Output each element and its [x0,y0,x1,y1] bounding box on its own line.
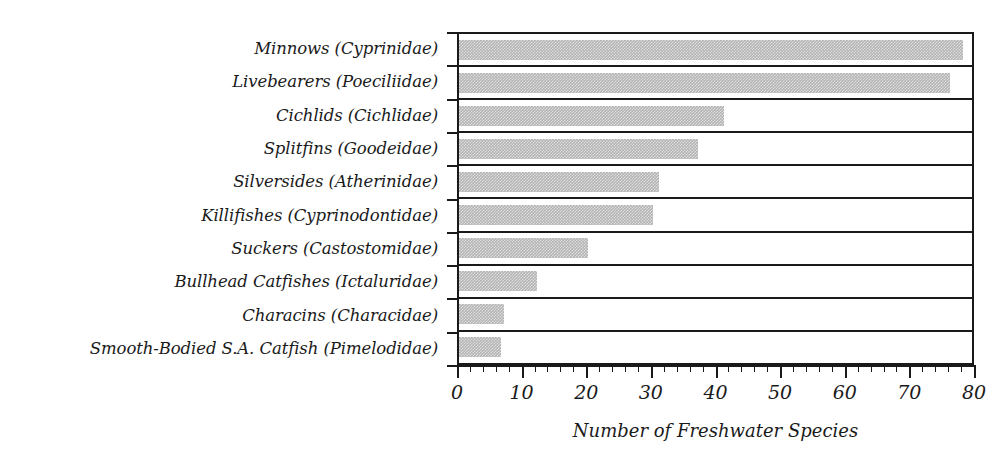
category-label: Smooth-Bodied S.A. Catfish (Pimelodidae) [0,332,446,365]
x-axis-tick-label: 60 [833,381,857,403]
bar-row [459,332,972,363]
bar [459,73,950,93]
category-label: Suckers (Castostomidae) [0,232,446,265]
x-axis-minor-tick [832,365,833,372]
x-axis-minor-tick [754,365,755,372]
x-axis-minor-tick [896,365,897,372]
bar-chart-figure: Minnows (Cyprinidae)Livebearers (Poecili… [0,0,1007,476]
x-axis-minor-tick [509,365,510,372]
x-axis-tick-label: 50 [768,381,792,403]
bar [459,205,653,225]
x-axis-tick-label: 10 [510,381,534,403]
category-label: Characins (Characidae) [0,298,446,331]
bar-row [459,266,972,299]
x-axis-major-tick [651,365,653,378]
category-label-column: Minnows (Cyprinidae)Livebearers (Poecili… [0,32,446,365]
x-axis-minor-tick [922,365,923,372]
category-label: Splitfins (Goodeidae) [0,132,446,165]
category-label: Minnows (Cyprinidae) [0,32,446,65]
category-label: Livebearers (Poeciliidae) [0,65,446,98]
x-axis-minor-tick [858,365,859,372]
x-axis-minor-tick [664,365,665,372]
x-axis-minor-tick [806,365,807,372]
x-axis-minor-tick [496,365,497,372]
x-axis-minor-tick [728,365,729,372]
bar [459,172,659,192]
bar [459,238,588,258]
x-axis-minor-tick [638,365,639,372]
bar-row [459,299,972,332]
x-axis-minor-tick [793,365,794,372]
x-axis-major-tick [586,365,588,378]
bar [459,106,724,126]
x-axis-major-tick [522,365,524,378]
x-axis-tick-label: 20 [574,381,598,403]
x-axis-minor-tick [470,365,471,372]
bar [459,271,537,291]
x-axis-major-tick [909,365,911,378]
bar-row [459,100,972,133]
x-axis-minor-tick [703,365,704,372]
x-axis-tick-label: 70 [897,381,921,403]
x-axis-minor-tick [625,365,626,372]
x-axis-tick-label: 40 [703,381,727,403]
x-axis-minor-tick [677,365,678,372]
x-axis-minor-tick [547,365,548,372]
x-axis-tick-label: 0 [451,381,463,403]
x-axis-minor-tick [819,365,820,372]
x-axis-tick-labels: 01020304050607080 [457,381,974,407]
x-axis-minor-tick [884,365,885,372]
x-axis-major-tick [845,365,847,378]
x-axis-minor-tick [690,365,691,372]
category-label: Killifishes (Cyprinodontidae) [0,198,446,231]
x-axis-tick-label: 30 [639,381,663,403]
x-axis-minor-tick [599,365,600,372]
bar [459,139,698,159]
x-axis-major-tick [457,365,459,378]
bar-row [459,166,972,199]
bar-rows [459,34,972,363]
x-axis-minor-tick [483,365,484,372]
x-axis-minor-tick [741,365,742,372]
bar-row [459,199,972,232]
x-axis-title: Number of Freshwater Species [457,420,974,441]
bar [459,40,963,60]
x-axis-minor-tick [767,365,768,372]
x-axis-major-tick [716,365,718,378]
category-label: Cichlids (Cichlidae) [0,99,446,132]
bar [459,337,501,357]
x-axis-minor-tick [935,365,936,372]
x-axis-minor-tick [871,365,872,372]
category-label: Bullhead Catfishes (Ictaluridae) [0,265,446,298]
bar-row [459,233,972,266]
x-axis [457,365,974,379]
x-axis-major-tick [974,365,976,378]
category-label: Silversides (Atherinidae) [0,165,446,198]
bar [459,304,504,324]
x-axis-minor-tick [573,365,574,372]
x-axis-minor-tick [961,365,962,372]
bar-row [459,133,972,166]
x-axis-minor-tick [948,365,949,372]
x-axis-major-tick [780,365,782,378]
x-axis-minor-tick [560,365,561,372]
plot-area [457,32,974,365]
x-axis-minor-tick [612,365,613,372]
x-axis-tick-label: 80 [962,381,986,403]
x-axis-minor-tick [535,365,536,372]
bar-row [459,34,972,67]
bar-row [459,67,972,100]
